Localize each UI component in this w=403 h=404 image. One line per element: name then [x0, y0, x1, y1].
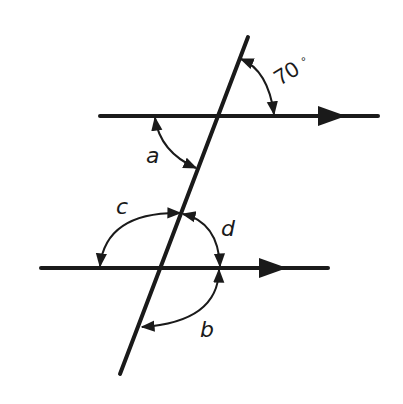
- parallel-arrow-icon: [259, 258, 287, 278]
- angle-70-label: 70: [269, 56, 303, 90]
- angle-c-arc: [100, 213, 180, 266]
- bottom-parallel-line: [41, 258, 328, 278]
- angle-c-label: c: [116, 194, 128, 219]
- angle-diagram: 70 ° a c d b: [0, 0, 403, 404]
- degree-symbol: °: [301, 55, 306, 69]
- angle-a-arc: [155, 118, 196, 168]
- angle-b-label: b: [200, 317, 214, 342]
- parallel-arrow-icon: [318, 106, 346, 126]
- angle-70-arc: [241, 59, 274, 114]
- top-parallel-line: [100, 106, 378, 126]
- angle-a-label: a: [146, 143, 159, 168]
- angle-d-label: d: [221, 216, 236, 241]
- transversal-line: [120, 37, 248, 374]
- angle-d-arc: [183, 214, 220, 266]
